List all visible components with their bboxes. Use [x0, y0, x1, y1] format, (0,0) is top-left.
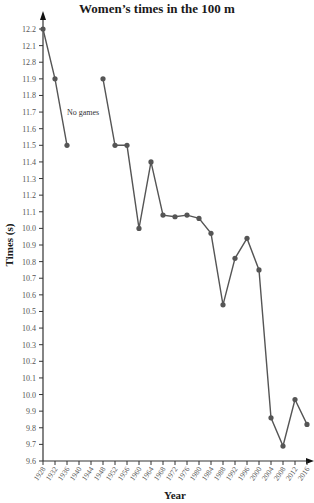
data-point — [148, 159, 153, 164]
y-axis-arrow-icon — [40, 11, 46, 20]
data-point — [220, 302, 225, 307]
y-tick-label: 12.1 — [22, 42, 36, 51]
y-tick-label: 11.9 — [22, 75, 36, 84]
y-tick-label: 10.0 — [22, 224, 36, 233]
y-tick-label: 10.5 — [22, 307, 36, 316]
data-point — [124, 143, 129, 148]
data-point — [64, 143, 69, 148]
y-tick-label: 10.8 — [22, 258, 36, 267]
y-tick-label: 9.7 — [26, 440, 36, 449]
x-axis-title: Year — [164, 489, 186, 501]
y-tick-label: 9.6 — [26, 457, 36, 466]
annotation-no-games: No games — [67, 108, 99, 117]
data-line — [43, 29, 67, 145]
y-tick-label: 12.8 — [22, 58, 36, 67]
x-tick-label: 2016 — [296, 465, 312, 483]
data-point — [160, 212, 165, 217]
data-point — [256, 267, 261, 272]
data-point — [184, 212, 189, 217]
y-tick-label: 11.2 — [22, 191, 36, 200]
y-tick-label: 11.6 — [22, 125, 36, 134]
data-point — [268, 415, 273, 420]
y-tick-label: 10.0 — [22, 391, 36, 400]
y-tick-label: 11.4 — [22, 158, 36, 167]
y-tick-label: 11.1 — [22, 208, 36, 217]
data-point — [280, 443, 285, 448]
y-tick-label: 9.8 — [26, 424, 36, 433]
y-tick-label: 10.9 — [22, 241, 36, 250]
data-point — [244, 236, 249, 241]
y-tick-label: 10.6 — [22, 291, 36, 300]
y-axis-title: Times (s) — [3, 223, 16, 266]
data-point — [304, 422, 309, 427]
y-tick-label: 11.7 — [22, 108, 36, 117]
data-point — [100, 76, 105, 81]
y-tick-label: 11.8 — [22, 91, 36, 100]
y-tick-label: 10.7 — [22, 274, 36, 283]
data-point — [136, 226, 141, 231]
y-tick-label: 12.2 — [22, 25, 36, 34]
data-point — [40, 26, 45, 31]
y-tick-label: 9.9 — [26, 407, 36, 416]
y-tick-label: 10.1 — [22, 374, 36, 383]
data-point — [232, 256, 237, 261]
data-point — [112, 143, 117, 148]
y-tick-label: 10.2 — [22, 357, 36, 366]
y-tick-label: 11.3 — [22, 175, 36, 184]
data-point — [52, 76, 57, 81]
data-point — [208, 231, 213, 236]
data-point — [292, 397, 297, 402]
y-tick-label: 10.4 — [22, 324, 36, 333]
data-point — [172, 214, 177, 219]
y-tick-label: 11.5 — [22, 141, 36, 150]
y-tick-label: 10.3 — [22, 341, 36, 350]
line-chart: 12.212.112.811.911.811.711.611.511.411.3… — [0, 0, 314, 503]
data-point — [196, 216, 201, 221]
data-line — [103, 79, 307, 446]
